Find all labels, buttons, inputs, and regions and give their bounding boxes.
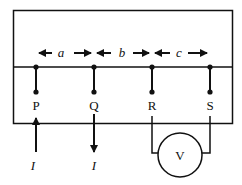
voltmeter: V bbox=[152, 116, 210, 177]
spacing-c-label: c bbox=[176, 45, 182, 60]
current-in-label: I bbox=[30, 158, 36, 173]
four-probe-diagram: a b c P Q R S I I bbox=[0, 0, 242, 185]
probe-q-label: Q bbox=[89, 98, 99, 113]
current-in-arrow: I bbox=[30, 118, 36, 173]
voltmeter-label: V bbox=[175, 148, 185, 163]
spacing-c: c bbox=[155, 45, 207, 60]
current-out-label: I bbox=[91, 158, 97, 173]
probe-r: R bbox=[148, 64, 157, 113]
spacing-a: a bbox=[39, 45, 91, 60]
probe-p: P bbox=[32, 64, 39, 113]
probe-s-label: S bbox=[206, 98, 213, 113]
spacing-b: b bbox=[97, 45, 149, 60]
probe-s: S bbox=[206, 64, 213, 113]
spacing-a-label: a bbox=[58, 45, 65, 60]
probe-q: Q bbox=[89, 64, 99, 113]
probe-p-label: P bbox=[32, 98, 39, 113]
spacing-b-label: b bbox=[119, 45, 126, 60]
probe-r-label: R bbox=[148, 98, 157, 113]
